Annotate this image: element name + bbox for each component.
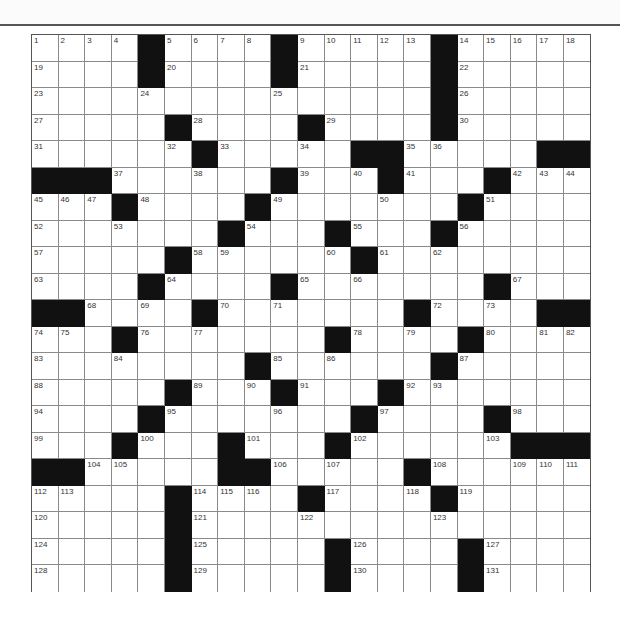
grid-cell[interactable]: 64 [165, 274, 192, 301]
grid-cell[interactable] [85, 88, 112, 115]
grid-cell[interactable]: 118 [404, 486, 431, 513]
grid-cell[interactable] [59, 406, 86, 433]
grid-cell[interactable] [165, 353, 192, 380]
grid-cell[interactable]: 102 [351, 433, 378, 460]
grid-cell[interactable]: 115 [218, 486, 245, 513]
grid-cell[interactable]: 108 [431, 459, 458, 486]
grid-cell[interactable] [271, 115, 298, 142]
grid-cell[interactable]: 33 [218, 141, 245, 168]
grid-cell[interactable] [298, 565, 325, 592]
grid-cell[interactable]: 72 [431, 300, 458, 327]
grid-cell[interactable] [404, 194, 431, 221]
grid-cell[interactable] [511, 486, 538, 513]
grid-cell[interactable] [511, 221, 538, 248]
grid-cell[interactable]: 125 [192, 539, 219, 566]
grid-cell[interactable]: 78 [351, 327, 378, 354]
grid-cell[interactable] [218, 380, 245, 407]
grid-cell[interactable]: 117 [325, 486, 352, 513]
grid-cell[interactable] [218, 565, 245, 592]
grid-cell[interactable] [537, 247, 564, 274]
grid-cell[interactable]: 62 [431, 247, 458, 274]
grid-cell[interactable]: 27 [32, 115, 59, 142]
grid-cell[interactable] [564, 115, 591, 142]
grid-cell[interactable]: 9 [298, 35, 325, 62]
grid-cell[interactable] [271, 327, 298, 354]
grid-cell[interactable] [564, 406, 591, 433]
grid-cell[interactable]: 44 [564, 168, 591, 195]
grid-cell[interactable]: 53 [112, 221, 139, 248]
grid-cell[interactable]: 98 [511, 406, 538, 433]
grid-cell[interactable] [404, 539, 431, 566]
grid-cell[interactable] [378, 459, 405, 486]
grid-cell[interactable]: 100 [138, 433, 165, 460]
grid-cell[interactable] [85, 512, 112, 539]
grid-cell[interactable] [564, 247, 591, 274]
grid-cell[interactable]: 49 [271, 194, 298, 221]
grid-cell[interactable] [564, 486, 591, 513]
grid-cell[interactable] [511, 194, 538, 221]
grid-cell[interactable] [245, 406, 272, 433]
grid-cell[interactable] [85, 486, 112, 513]
grid-cell[interactable]: 68 [85, 300, 112, 327]
grid-cell[interactable] [138, 247, 165, 274]
grid-cell[interactable]: 110 [537, 459, 564, 486]
grid-cell[interactable] [564, 274, 591, 301]
grid-cell[interactable]: 122 [298, 512, 325, 539]
grid-cell[interactable] [511, 300, 538, 327]
grid-cell[interactable] [511, 565, 538, 592]
grid-cell[interactable] [85, 327, 112, 354]
grid-cell[interactable] [325, 406, 352, 433]
grid-cell[interactable] [458, 380, 485, 407]
grid-cell[interactable] [85, 141, 112, 168]
grid-cell[interactable] [59, 62, 86, 89]
grid-cell[interactable]: 131 [484, 565, 511, 592]
grid-cell[interactable]: 130 [351, 565, 378, 592]
grid-cell[interactable] [59, 433, 86, 460]
grid-cell[interactable] [218, 274, 245, 301]
grid-cell[interactable] [564, 88, 591, 115]
grid-cell[interactable]: 7 [218, 35, 245, 62]
grid-cell[interactable] [138, 115, 165, 142]
grid-cell[interactable]: 75 [59, 327, 86, 354]
grid-cell[interactable] [165, 221, 192, 248]
grid-cell[interactable] [458, 459, 485, 486]
grid-cell[interactable]: 119 [458, 486, 485, 513]
grid-cell[interactable] [537, 353, 564, 380]
grid-cell[interactable] [378, 88, 405, 115]
grid-cell[interactable] [192, 406, 219, 433]
grid-cell[interactable]: 50 [378, 194, 405, 221]
grid-cell[interactable] [325, 62, 352, 89]
grid-cell[interactable] [245, 141, 272, 168]
grid-cell[interactable]: 43 [537, 168, 564, 195]
grid-cell[interactable]: 28 [192, 115, 219, 142]
grid-cell[interactable]: 59 [218, 247, 245, 274]
grid-cell[interactable] [351, 486, 378, 513]
grid-cell[interactable]: 4 [112, 35, 139, 62]
grid-cell[interactable]: 18 [564, 35, 591, 62]
grid-cell[interactable] [85, 62, 112, 89]
grid-cell[interactable] [431, 565, 458, 592]
grid-cell[interactable] [537, 194, 564, 221]
grid-cell[interactable] [378, 433, 405, 460]
grid-cell[interactable]: 126 [351, 539, 378, 566]
grid-cell[interactable] [564, 353, 591, 380]
grid-cell[interactable] [511, 141, 538, 168]
grid-cell[interactable]: 116 [245, 486, 272, 513]
grid-cell[interactable]: 127 [484, 539, 511, 566]
grid-cell[interactable] [458, 247, 485, 274]
grid-cell[interactable]: 79 [404, 327, 431, 354]
grid-cell[interactable]: 70 [218, 300, 245, 327]
grid-cell[interactable]: 42 [511, 168, 538, 195]
grid-cell[interactable] [458, 274, 485, 301]
grid-cell[interactable]: 51 [484, 194, 511, 221]
grid-cell[interactable] [511, 62, 538, 89]
grid-cell[interactable] [458, 168, 485, 195]
grid-cell[interactable] [511, 247, 538, 274]
grid-cell[interactable]: 6 [192, 35, 219, 62]
grid-cell[interactable] [85, 406, 112, 433]
grid-cell[interactable] [484, 247, 511, 274]
grid-cell[interactable]: 57 [32, 247, 59, 274]
grid-cell[interactable] [351, 459, 378, 486]
grid-cell[interactable] [484, 221, 511, 248]
grid-cell[interactable]: 30 [458, 115, 485, 142]
